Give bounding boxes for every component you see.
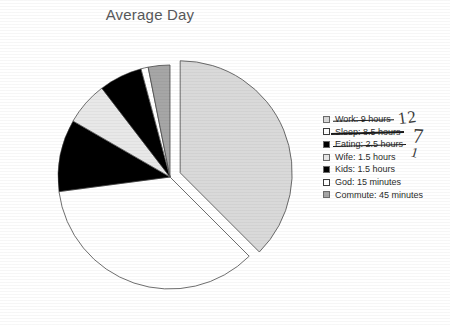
legend-item[interactable]: Sleep: 8.5 hours — [323, 126, 450, 139]
legend-item-label: Kids: 1.5 hours — [335, 163, 395, 176]
legend-swatch-icon — [323, 141, 330, 148]
legend-swatch-icon — [323, 116, 330, 123]
legend-item[interactable]: Commute: 45 minutes — [323, 189, 450, 202]
legend-item-label: Commute: 45 minutes — [335, 189, 423, 202]
legend-swatch-icon — [323, 154, 330, 161]
legend-item[interactable]: Eating: 2.5 hours — [323, 138, 450, 151]
legend-item[interactable]: Kids: 1.5 hours — [323, 163, 450, 176]
legend-swatch-icon — [323, 179, 330, 186]
legend-item[interactable]: God: 15 minutes — [323, 176, 450, 189]
pie-slices — [58, 61, 292, 289]
pie-chart-figure: Average Day Work: 9 hoursSleep: 8.5 hour… — [0, 0, 450, 325]
legend-swatch-icon — [323, 128, 330, 135]
legend-item-label: Work: 9 hours — [335, 113, 391, 126]
legend-item-label: Wife: 1.5 hours — [335, 151, 396, 164]
legend-swatch-icon — [323, 166, 330, 173]
legend-item[interactable]: Work: 9 hours — [323, 113, 450, 126]
chart-legend: Work: 9 hoursSleep: 8.5 hoursEating: 2.5… — [323, 113, 450, 201]
legend-item-label: Eating: 2.5 hours — [335, 138, 403, 151]
legend-swatch-icon — [323, 191, 330, 198]
legend-item-label: God: 15 minutes — [335, 176, 401, 189]
legend-item-label: Sleep: 8.5 hours — [335, 126, 401, 139]
legend-item[interactable]: Wife: 1.5 hours — [323, 151, 450, 164]
